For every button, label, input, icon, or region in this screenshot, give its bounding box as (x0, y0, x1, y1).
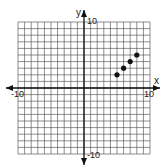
y-axis-label: y (76, 7, 81, 18)
x-min-label: -10 (11, 89, 24, 99)
data-points (114, 52, 139, 77)
y-max-label: 10 (87, 16, 97, 26)
data-point (114, 72, 119, 77)
data-point (134, 52, 139, 57)
coordinate-plane: x y -10 10 10 -10 (0, 0, 163, 167)
data-point (121, 66, 126, 71)
y-min-label: -10 (87, 150, 100, 160)
x-max-label: 10 (144, 89, 154, 99)
data-point (128, 59, 133, 64)
x-axis-label: x (154, 75, 159, 86)
